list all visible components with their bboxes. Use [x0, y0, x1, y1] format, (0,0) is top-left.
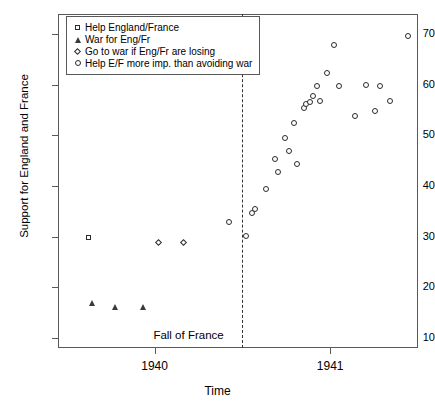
data-point	[294, 161, 300, 167]
data-point	[226, 219, 232, 225]
data-point	[324, 70, 330, 76]
data-point	[275, 169, 281, 175]
x-axis-title: Time	[0, 385, 435, 397]
data-point	[331, 42, 337, 48]
data-point	[243, 233, 249, 239]
data-point	[310, 93, 316, 99]
legend-label: Help E/F more imp. than avoiding war	[85, 58, 252, 69]
x-tick-mark	[330, 348, 331, 354]
fall-of-france-label: Fall of France	[153, 329, 223, 341]
legend-item: Help England/France	[71, 22, 252, 33]
data-point	[86, 235, 91, 240]
data-point	[307, 99, 313, 105]
y-axis-title: Support for England and France	[18, 46, 30, 266]
data-point	[291, 120, 297, 126]
triangle-marker-icon	[71, 34, 85, 45]
x-tick-label: 1940	[125, 360, 185, 372]
data-point	[405, 33, 411, 39]
legend-item: Help E/F more imp. than avoiding war	[71, 58, 252, 69]
x-tick-label: 1941	[300, 360, 360, 372]
data-point	[352, 113, 358, 119]
data-point	[282, 135, 288, 141]
data-point	[314, 83, 320, 89]
data-point	[372, 108, 378, 114]
x-tick-mark	[155, 348, 156, 354]
legend-label: Help England/France	[85, 22, 179, 33]
data-point	[336, 83, 342, 89]
data-point	[286, 148, 292, 154]
data-point	[387, 98, 393, 104]
data-point	[89, 300, 95, 306]
data-point	[155, 239, 162, 246]
data-point	[180, 239, 187, 246]
data-point	[317, 98, 323, 104]
data-point	[263, 186, 269, 192]
data-point	[272, 156, 278, 162]
legend-label: War for Eng/Fr	[85, 34, 150, 45]
legend: Help England/FranceWar for Eng/FrGo to w…	[66, 16, 260, 75]
data-point	[140, 304, 146, 310]
data-point	[363, 82, 369, 88]
legend-label: Go to war if Eng/Fr are losing	[85, 46, 215, 57]
data-point	[252, 206, 258, 212]
diamond-marker-icon	[71, 46, 85, 57]
legend-item: Go to war if Eng/Fr are losing	[71, 46, 252, 57]
chart-canvas: Support for England and France 102030405…	[0, 0, 435, 409]
square-marker-icon	[71, 22, 85, 33]
legend-item: War for Eng/Fr	[71, 34, 252, 45]
data-point	[377, 83, 383, 89]
circle-marker-icon	[71, 58, 85, 69]
data-point	[112, 304, 118, 310]
